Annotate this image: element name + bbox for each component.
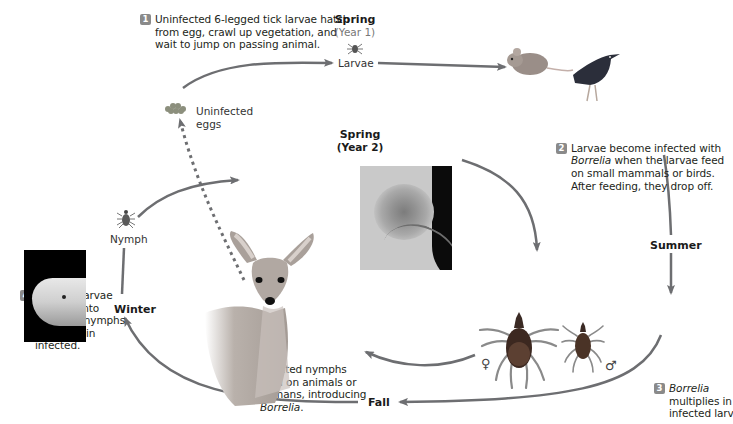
starling-illustration xyxy=(565,45,625,105)
season-label: Spring xyxy=(330,128,390,141)
step-2-line: on small mammals or birds. xyxy=(571,167,733,180)
step-1-line: from egg, crawl up vegetation, and xyxy=(155,26,733,39)
bullseye-rash-photo xyxy=(360,166,452,270)
larvae-label: Larvae xyxy=(338,57,374,69)
eggs-cluster-icon xyxy=(163,100,189,116)
step-2-line: After feeding, they drop off. xyxy=(571,180,733,193)
nymph-tick-icon xyxy=(116,207,136,229)
step-2: 2 Larvae become infected with Borrelia w… xyxy=(556,142,733,192)
adult-female-tick xyxy=(478,310,560,390)
season-sublabel: (Year 2) xyxy=(330,141,390,153)
arrow-nymph-to-step5 xyxy=(138,180,238,217)
male-symbol: ♂ xyxy=(605,358,617,373)
step-1: 1 Uninfected 6-legged tick larvae hatch … xyxy=(140,13,733,51)
step-2-line: Borrelia when the larvae feed xyxy=(571,154,733,167)
eggs-label: Uninfected eggs xyxy=(196,105,253,130)
step-1-line: Uninfected 6-legged tick larvae hatch xyxy=(155,13,733,26)
step-1-line: wait to jump on passing animal. xyxy=(155,38,733,51)
season-label: Spring xyxy=(326,13,384,26)
season-winter: Winter xyxy=(114,303,156,316)
season-sublabel: (Year 1) xyxy=(326,26,384,38)
arrow-winter-to-nymph xyxy=(122,248,124,294)
step-4-line: that remain xyxy=(35,327,733,340)
season-summer: Summer xyxy=(650,239,702,252)
nymph-label: Nymph xyxy=(110,233,148,245)
larva-tick-icon xyxy=(347,41,363,55)
step-4-line: infected. xyxy=(35,339,733,352)
arrow-to-step6 xyxy=(462,160,537,250)
borrelia-term: Borrelia xyxy=(571,154,611,166)
step-4: 4 Infected larvae develop into 8-legged … xyxy=(20,289,733,352)
step-4-line: 8-legged nymphs xyxy=(35,314,733,327)
arrow-eggs-to-larvae xyxy=(183,63,332,88)
arrow-larvae-to-host xyxy=(378,63,505,67)
adult-male-tick xyxy=(561,322,605,374)
season-spring-year1: Spring (Year 1) xyxy=(326,13,384,38)
female-symbol: ♀ xyxy=(481,356,491,371)
tick-on-finger-photo xyxy=(24,250,86,342)
step-badge-2: 2 xyxy=(556,143,567,154)
step-4-line: Infected larvae xyxy=(35,289,733,302)
deer-illustration xyxy=(195,228,335,408)
step-badge-1: 1 xyxy=(140,14,151,25)
season-fall: Fall xyxy=(368,396,390,409)
step-2-line: Larvae become infected with xyxy=(571,142,733,155)
season-spring-year2: Spring (Year 2) xyxy=(330,128,390,153)
